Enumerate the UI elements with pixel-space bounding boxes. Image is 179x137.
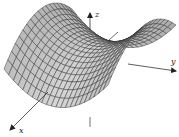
y-axis [128, 64, 176, 71]
y-axis-label: y [171, 58, 176, 66]
x-axis [10, 92, 48, 130]
saddle-surface-figure [0, 0, 179, 137]
x-axis-label: x [19, 127, 24, 135]
z-axis-label: z [95, 11, 99, 19]
